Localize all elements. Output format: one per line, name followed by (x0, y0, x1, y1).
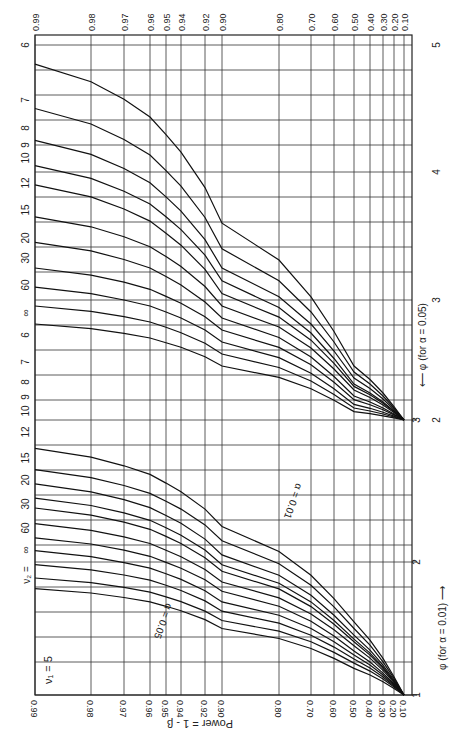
power-curves (35, 64, 404, 695)
power-tick-top: 0.80 (275, 13, 285, 31)
power-tick-bottom: 0.99 (29, 700, 39, 718)
power-tick-top: 0.10 (400, 13, 410, 31)
phi05-tick-label: 3 (431, 297, 442, 303)
xlabel-alpha05: ⟵ φ (for α = 0.05) (417, 303, 428, 387)
power-tick-top: 0.40 (366, 13, 376, 31)
power-tick-bottom: 0.95 (160, 700, 170, 718)
nu2-label-alpha05: 8 (20, 125, 31, 131)
nu2-label-alpha01: 9 (20, 394, 31, 400)
power-tick-top: 0.30 (379, 13, 389, 31)
nu2-label-alpha05: 7 (20, 97, 31, 103)
nu2-label-alpha01: 15 (20, 452, 31, 464)
power-tick-bottom: 0.92 (199, 700, 209, 718)
power-tick-bottom: 0.97 (118, 700, 128, 718)
power-curve (35, 448, 404, 695)
power-tick-top: 0.95 (162, 13, 172, 31)
power-axis-bottom: 0.990.980.970.960.950.940.920.900.800.70… (29, 700, 408, 718)
nu2-label-alpha01: 8 (20, 379, 31, 385)
phi01-tick-label: 3 (411, 417, 422, 423)
power-curve (35, 64, 404, 420)
power-tick-top: 0.97 (120, 13, 130, 31)
power-chart: 0.990.980.970.960.950.940.920.900.800.70… (0, 0, 458, 737)
phi05-tick-label: 5 (431, 42, 442, 48)
power-tick-top: 0.94 (177, 13, 187, 31)
alpha01-label: α = 0.01 (282, 482, 305, 521)
nu2-label-alpha05: 60 (20, 279, 31, 291)
nu2-label-alpha05: 20 (20, 232, 31, 244)
power-tick-bottom: 0.70 (305, 700, 315, 718)
power-tick-top: 0.96 (146, 13, 156, 31)
nu2-label-alpha01: 10 (20, 405, 31, 417)
nu2-label: ν₂ = (21, 566, 32, 584)
power-tick-bottom: 0.94 (175, 700, 185, 718)
power-tick-bottom: 0.30 (377, 700, 387, 718)
power-tick-bottom: 0.98 (85, 700, 95, 718)
power-curve (35, 324, 404, 420)
power-tick-top: 0.98 (87, 13, 97, 31)
power-tick-bottom: 0.10 (398, 700, 408, 718)
nu2-label-alpha01: 30 (20, 498, 31, 510)
nu2-label-alpha05: 12 (20, 177, 31, 189)
power-tick-bottom: 0.60 (328, 700, 338, 718)
phi05-tick-label: 2 (431, 417, 442, 423)
power-tick-bottom: 0.80 (273, 700, 283, 718)
power-axis-top: 0.990.980.970.960.950.940.920.900.800.70… (31, 13, 410, 31)
phi01-tick-label: 1 (411, 692, 422, 698)
xlabel-alpha01: φ (for α = 0.01) ⟶ (437, 586, 448, 670)
nu2-label-alpha05: ∞ (20, 309, 31, 316)
nu2-label-alpha01: 20 (20, 474, 31, 486)
power-tick-top: 0.50 (350, 13, 360, 31)
power-tick-top: 0.90 (218, 13, 228, 31)
nu2-label-alpha01: 6 (20, 332, 31, 338)
nu2-label-alpha01: 12 (20, 426, 31, 438)
nu2-label-alpha01: 60 (20, 522, 31, 534)
power-tick-bottom: 0.50 (348, 700, 358, 718)
power-curve (35, 242, 404, 420)
power-tick-top: 0.60 (330, 13, 340, 31)
power-tick-top: 0.99 (31, 13, 41, 31)
power-tick-bottom: 0.20 (388, 700, 398, 718)
nu2-label-alpha05: 10 (20, 152, 31, 164)
power-tick-bottom: 0.40 (364, 700, 374, 718)
plot-frame (35, 35, 412, 695)
power-tick-bottom: 0.90 (216, 700, 226, 718)
curve-labels: 66778899101012121515202030306060∞∞ (20, 42, 31, 554)
nu2-label-alpha05: 30 (20, 252, 31, 264)
nu2-label-alpha05: 15 (20, 204, 31, 216)
power-curve (35, 508, 404, 695)
nu1-label: ν₁ = 5 (42, 656, 54, 684)
nu2-label-alpha01: 7 (20, 359, 31, 365)
phi05-tick-label: 4 (431, 169, 442, 175)
ylabel: Power = 1 - β (167, 718, 233, 730)
power-tick-top: 0.92 (201, 13, 211, 31)
grid-lines (35, 35, 412, 695)
power-tick-top: 0.20 (390, 13, 400, 31)
power-tick-bottom: 0.96 (144, 700, 154, 718)
nu2-label-alpha05: 6 (20, 42, 31, 48)
power-curve (35, 166, 404, 420)
alpha05-label: α = 0.05 (152, 602, 175, 641)
nu2-label-alpha05: 9 (20, 142, 31, 148)
power-tick-top: 0.70 (307, 13, 317, 31)
phi01-tick-label: 2 (411, 559, 422, 565)
nu2-label-alpha01: ∞ (20, 546, 31, 553)
